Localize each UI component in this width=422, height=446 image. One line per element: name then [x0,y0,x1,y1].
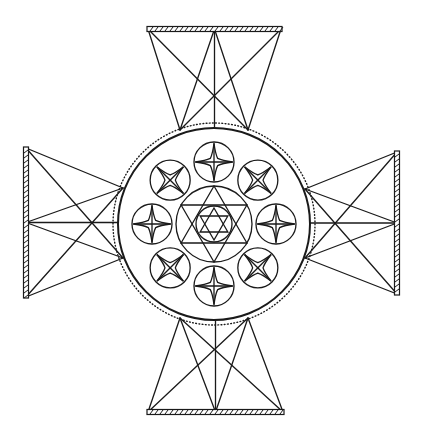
arm-mid-line [216,318,249,412]
arm-edge-line [305,258,397,294]
hatched-bars-group [24,27,400,415]
hatched-bar-right [395,151,400,295]
arm-edge-line [148,318,180,412]
arm-left [26,148,123,297]
arm-edge-line [148,29,180,130]
arm-edge-line [26,258,123,297]
arm-bottom [148,318,283,412]
star-circle [194,142,234,182]
small-star-circles-group [132,142,296,306]
hexagram-inner-circle [196,206,232,242]
arm-mid-line [305,223,397,258]
arm-mid-line [180,318,216,412]
inner-star-of-david-icon [200,208,228,232]
inner-star-of-david-icon [200,216,228,240]
arms-group [26,29,397,412]
star-circle [238,248,278,288]
arm-edge-line [248,29,281,130]
star-circle [150,160,190,200]
star-circle [238,160,278,200]
diagram-canvas [0,0,422,446]
arm-mid-line [215,29,249,130]
arm-mid-line [305,189,397,223]
cross-mandala-diagram [0,0,422,446]
star-circle [132,204,172,244]
arm-diagonal-line [26,148,123,258]
star-circle [194,266,234,306]
arm-mid-line [180,29,215,130]
hatched-bar-bottom [147,410,284,415]
arm-right [305,152,397,294]
central-hexagram-group [176,186,252,262]
arm-edge-line [26,148,123,188]
arm-edge-line [305,152,397,189]
hatched-bar-top [147,27,283,32]
arm-diagonal-line [26,188,123,297]
arm-diagonal-line [180,29,281,130]
hatched-bar-left [24,147,29,298]
hexagram-outer-circle [176,186,252,262]
star-circle [256,204,296,244]
arm-mid-line [26,223,123,259]
bar-outline [395,151,400,295]
arm-top [148,29,281,130]
arm-edge-line [248,318,283,412]
star-circle [150,248,190,288]
arm-diagonal-line [148,29,248,130]
